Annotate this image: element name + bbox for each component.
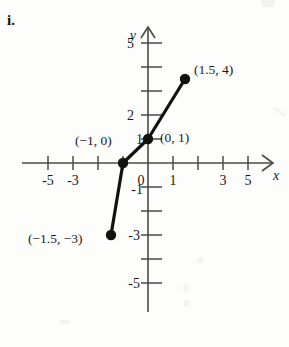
y-axis xyxy=(141,27,155,312)
y-tick-label: -3 xyxy=(128,228,140,243)
y-tick-label: -1 xyxy=(131,182,143,197)
data-point-1_5-4 xyxy=(180,74,190,84)
y-tick-label: -5 xyxy=(128,276,140,291)
point-label-1_5-4: (1.5, 4) xyxy=(194,62,233,77)
x-tick-label: 3 xyxy=(220,173,227,188)
graph-figure: i. xyxy=(0,0,289,347)
data-point-0-1 xyxy=(143,134,153,144)
x-tick-label: -5 xyxy=(42,173,54,188)
point-label-neg1-0: (−1, 0) xyxy=(75,133,112,148)
x-tick-label: 5 xyxy=(245,173,252,188)
x-tick-label: 1 xyxy=(170,173,177,188)
x-tick-label: -3 xyxy=(67,173,79,188)
data-point-neg1_5-neg3 xyxy=(106,230,116,240)
point-label-0-1: (0, 1) xyxy=(160,130,189,145)
x-axis-label: x xyxy=(272,168,280,183)
coordinate-plane: -5 -3 0 1 3 5 5 2 1 -1 -3 -5 x y (1.5, 4… xyxy=(0,0,289,347)
y-axis-label: y xyxy=(128,28,137,43)
data-point-neg1-0 xyxy=(118,158,128,168)
y-tick-label: 2 xyxy=(127,108,134,123)
point-label-neg1_5-neg3: (−1.5, −3) xyxy=(28,231,83,246)
